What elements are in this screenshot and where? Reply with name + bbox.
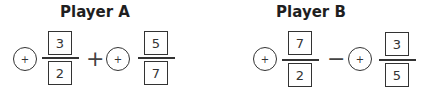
denominator-value: 2 (296, 68, 304, 83)
sign-label: + (356, 54, 364, 65)
player-b-title: Player B (251, 3, 371, 21)
numerator-value: 7 (296, 36, 304, 51)
sign-circle[interactable]: + (348, 47, 372, 71)
sign-label: + (114, 54, 122, 65)
denominator-box[interactable]: 2 (48, 61, 72, 85)
sign-circle[interactable]: + (253, 47, 277, 71)
sign-label: + (21, 54, 29, 65)
fraction-bar (282, 59, 319, 61)
numerator-value: 3 (393, 37, 401, 52)
fraction-bar (379, 59, 416, 61)
denominator-value: 2 (56, 66, 64, 81)
numerator-value: 3 (56, 36, 64, 51)
operator: − (327, 48, 345, 70)
numerator-box[interactable]: 3 (385, 32, 409, 56)
sign-label: + (261, 54, 269, 65)
denominator-value: 5 (393, 68, 401, 83)
fraction-bar (138, 57, 175, 59)
denominator-value: 7 (152, 66, 160, 81)
sign-circle[interactable]: + (106, 47, 130, 71)
denominator-box[interactable]: 2 (288, 63, 312, 87)
operator: + (86, 48, 104, 70)
numerator-box[interactable]: 3 (48, 31, 72, 55)
denominator-box[interactable]: 7 (144, 61, 168, 85)
denominator-box[interactable]: 5 (385, 63, 409, 87)
fraction-bar (42, 57, 79, 59)
numerator-box[interactable]: 5 (144, 31, 168, 55)
numerator-box[interactable]: 7 (288, 31, 312, 55)
numerator-value: 5 (152, 36, 160, 51)
sign-circle[interactable]: + (13, 47, 37, 71)
player-a-title: Player A (35, 3, 155, 21)
